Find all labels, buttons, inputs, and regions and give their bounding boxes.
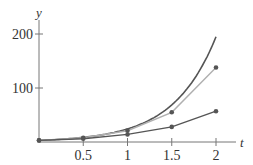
plot-area [37,37,219,143]
data-point [214,109,219,114]
data-point [81,136,86,141]
chart: ty0.511.52100200 [0,0,253,165]
data-point [37,138,42,143]
data-point [214,65,219,70]
x-tick-label: 1 [124,148,131,163]
y-tick-label: 200 [12,27,33,42]
x-tick-label: 0.5 [75,148,93,163]
data-point [125,132,130,137]
x-axis-label: t [240,135,244,150]
x-tick-label: 2 [213,148,220,163]
y-axis-label: y [34,5,42,20]
data-point [169,110,174,115]
x-tick-label: 1.5 [163,148,181,163]
y-tick-label: 100 [12,81,33,96]
data-point [169,125,174,130]
exact-curve [39,37,216,141]
